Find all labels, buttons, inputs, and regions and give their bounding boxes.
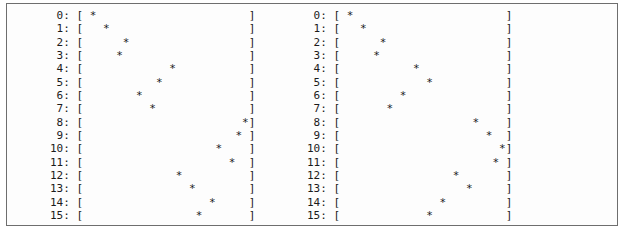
terminal-window-frame: 0: [ * ] 1: [ * ] 2: [ * ] 3: [ * ] 4: […: [6, 3, 618, 226]
right-plot-panel: 0: [ * ] 1: [ * ] 2: [ * ] 3: [ * ] 4: […: [299, 4, 599, 225]
plot-panels-container: 0: [ * ] 1: [ * ] 2: [ * ] 3: [ * ] 4: […: [7, 4, 617, 225]
left-plot-panel: 0: [ * ] 1: [ * ] 2: [ * ] 3: [ * ] 4: […: [7, 4, 299, 225]
right-plot-ascii-output: 0: [ * ] 1: [ * ] 2: [ * ] 3: [ * ] 4: […: [307, 9, 512, 223]
left-plot-ascii-output: 0: [ * ] 1: [ * ] 2: [ * ] 3: [ * ] 4: […: [50, 9, 255, 223]
